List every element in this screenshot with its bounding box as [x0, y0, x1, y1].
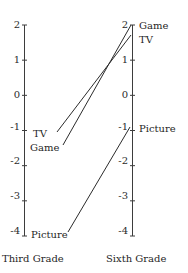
- right-label-game: Game: [139, 20, 168, 31]
- right-label-tv: TV: [139, 34, 153, 45]
- left-axis-tick-neg1: -1: [6, 122, 20, 132]
- left-label-picture: Picture: [31, 229, 68, 240]
- slope-chart-figure: 2 1 0 -1 -2 -3 -4 2 1 0 -1 -2 -3 -4 TV G…: [0, 0, 188, 273]
- right-label-picture: Picture: [139, 123, 176, 134]
- right-axis-tick-neg4: -4: [114, 226, 128, 236]
- left-axis-tick-2: 2: [8, 20, 20, 30]
- right-axis-tick-neg2: -2: [114, 156, 128, 166]
- series-line-tv: [57, 35, 131, 132]
- right-axis-tick-1: 1: [116, 55, 128, 65]
- right-axis-tick-neg3: -3: [114, 191, 128, 201]
- left-label-game: Game: [30, 142, 59, 153]
- chart-canvas: [0, 0, 188, 273]
- left-axis-tick-neg3: -3: [6, 191, 20, 201]
- left-axis-tick-0: 0: [8, 90, 20, 100]
- right-axis-tick-0: 0: [116, 90, 128, 100]
- left-axis-title: Third Grade: [2, 253, 64, 264]
- left-axis-tick-1: 1: [8, 55, 20, 65]
- left-axis-tick-neg2: -2: [6, 156, 20, 166]
- left-label-tv: TV: [33, 128, 47, 139]
- right-axis-title: Sixth Grade: [106, 253, 166, 264]
- left-axis-tick-neg4: -4: [6, 226, 20, 236]
- series-line-picture: [68, 127, 130, 232]
- right-axis-tick-2: 2: [116, 20, 128, 30]
- right-axis-tick-neg1: -1: [114, 122, 128, 132]
